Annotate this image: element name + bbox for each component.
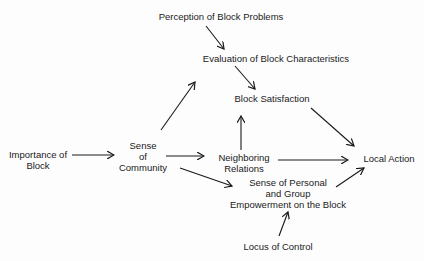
node-evaluation-of-block-characteristics: Evaluation of Block Characteristics	[203, 53, 349, 64]
node-local-action: Local Action	[363, 153, 414, 164]
node-locus-of-control: Locus of Control	[243, 241, 312, 252]
arrow-locus-to-empowerment	[279, 212, 288, 236]
node-label: Local Action	[363, 153, 414, 164]
node-label-line-1: Neighboring	[218, 152, 269, 163]
node-label-line-1: Sense	[119, 140, 167, 151]
diagram-edges	[0, 0, 424, 261]
node-label-line-2: Block	[9, 160, 67, 171]
arrow-satisfaction-to-local-action	[311, 108, 354, 146]
node-personal-group-empowerment: Sense of Personal and Group Empowerment …	[230, 177, 346, 210]
node-label: Locus of Control	[243, 241, 312, 252]
node-label-line-2: and Group	[230, 188, 346, 199]
node-sense-of-community: Sense of Community	[119, 140, 167, 173]
path-diagram: Perception of Block Problems Evaluation …	[0, 0, 424, 261]
node-label-line-1: Sense of Personal	[230, 177, 346, 188]
node-label: Evaluation of Block Characteristics	[203, 53, 349, 64]
node-perception-of-block-problems: Perception of Block Problems	[159, 11, 284, 22]
node-label-line-3: Empowerment on the Block	[230, 199, 346, 210]
node-label-line-3: Community	[119, 162, 167, 173]
node-label-line-1: Importance of	[9, 149, 67, 160]
arrow-evaluation-to-satisfaction	[235, 66, 255, 89]
node-label: Block Satisfaction	[235, 93, 310, 104]
node-importance-of-block: Importance of Block	[9, 149, 67, 171]
node-label-line-2: Relations	[218, 163, 269, 174]
node-label: Perception of Block Problems	[159, 11, 284, 22]
node-neighboring-relations: Neighboring Relations	[218, 152, 269, 174]
node-block-satisfaction: Block Satisfaction	[235, 93, 310, 104]
node-label-line-2: of	[119, 151, 167, 162]
arrow-perception-to-evaluation	[206, 26, 224, 49]
arrow-community-to-evaluation	[161, 82, 195, 130]
